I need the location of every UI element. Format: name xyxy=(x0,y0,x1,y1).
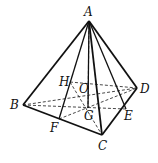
label-C: C xyxy=(98,139,107,153)
edge-BE xyxy=(23,105,126,109)
pyramid-diagram: A B C D H O G E F xyxy=(0,0,158,163)
edge-AF xyxy=(59,21,89,119)
label-B: B xyxy=(9,98,19,112)
label-O: O xyxy=(79,82,89,96)
label-G: G xyxy=(84,109,94,123)
label-H: H xyxy=(58,75,70,89)
label-F: F xyxy=(49,121,59,135)
label-E: E xyxy=(123,109,133,123)
label-A: A xyxy=(83,5,93,19)
label-D: D xyxy=(139,82,150,96)
